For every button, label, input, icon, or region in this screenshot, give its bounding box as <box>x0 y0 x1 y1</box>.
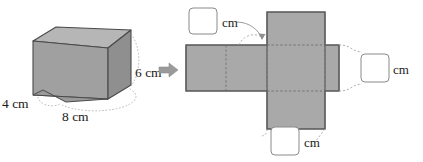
prism-depth-label: 4 cm <box>2 96 29 111</box>
net-center-face <box>268 46 324 90</box>
rectangular-prism: 6 cm 4 cm 8 cm <box>2 27 162 124</box>
answer-box-top[interactable] <box>189 8 217 34</box>
answer-box-right-unit: cm <box>393 62 409 77</box>
answer-box-right[interactable] <box>361 54 389 82</box>
answer-box-top-unit: cm <box>222 15 238 30</box>
math-figure: 6 cm 4 cm 8 cm <box>0 0 423 162</box>
top-answer-group[interactable]: cm <box>189 8 238 34</box>
right-answer-group[interactable]: cm <box>361 54 409 82</box>
right-answer-leader <box>339 45 362 91</box>
right-arrow-icon <box>159 63 178 77</box>
prism-width-label: 8 cm <box>62 109 89 124</box>
bottom-answer-group[interactable]: cm <box>271 127 320 155</box>
answer-box-bottom-unit: cm <box>304 135 320 150</box>
figure-container: 6 cm 4 cm 8 cm <box>0 0 423 162</box>
prism-height-label: 6 cm <box>135 65 162 80</box>
answer-box-bottom[interactable] <box>271 127 299 155</box>
top-answer-leader <box>236 22 266 45</box>
